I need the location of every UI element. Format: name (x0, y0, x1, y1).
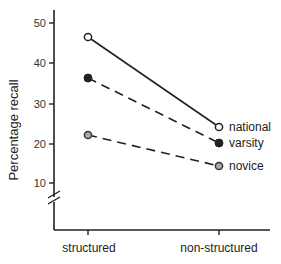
y-tick-label: 20 (34, 138, 46, 150)
x-category-label: structured (62, 241, 115, 255)
marker-national-structured (84, 33, 91, 40)
series-label-novice: novice (229, 159, 264, 173)
y-tick-label: 10 (34, 177, 46, 189)
marker-varsity-nonstructured (215, 139, 223, 147)
series-line-national (88, 37, 219, 127)
series-label-national: national (229, 120, 271, 134)
marker-national-nonstructured (215, 123, 222, 130)
marker-novice-nonstructured (215, 162, 222, 169)
series-line-varsity (88, 78, 219, 143)
series-line-novice (88, 135, 219, 166)
y-axis-title: Percentage recall (6, 79, 21, 180)
y-tick-label: 40 (34, 57, 46, 69)
marker-varsity-structured (84, 74, 92, 82)
series-label-varsity: varsity (229, 136, 264, 150)
recall-line-chart: 50 40 30 20 10 Percentage recall structu… (0, 0, 281, 264)
marker-novice-structured (84, 131, 91, 138)
x-category-label: non-structured (180, 241, 257, 255)
y-tick-label: 30 (34, 98, 46, 110)
y-tick-label: 50 (34, 17, 46, 29)
